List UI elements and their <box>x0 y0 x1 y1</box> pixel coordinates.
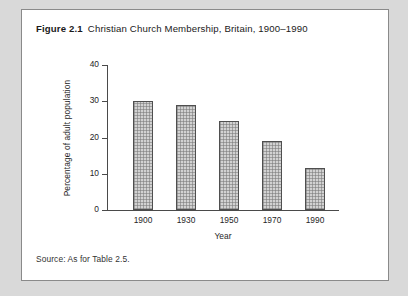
bar <box>305 168 325 210</box>
y-axis-tick-label: 10 <box>90 168 99 178</box>
x-axis-title: Year <box>107 231 339 241</box>
figure-number: Figure 2.1 <box>36 23 83 34</box>
figure-title: Figure 2.1Christian Church Membership, B… <box>36 23 308 34</box>
x-axis-tick-label: 1950 <box>209 215 249 225</box>
y-axis-line <box>107 65 108 211</box>
y-axis-tick: 10 <box>102 174 107 175</box>
figure-frame: Figure 2.1Christian Church Membership, B… <box>21 9 389 281</box>
y-axis-tick: 20 <box>102 138 107 139</box>
chart-plot-area: Percentage of adult population 0 10 20 3… <box>107 65 339 211</box>
source-note: Source: As for Table 2.5. <box>36 254 130 264</box>
x-axis-line <box>107 210 339 211</box>
bar <box>176 105 196 210</box>
y-axis-tick-label: 20 <box>90 132 99 142</box>
y-axis-tick-label: 30 <box>90 95 99 105</box>
y-axis-tick: 0 <box>102 210 107 211</box>
bar <box>133 101 153 211</box>
x-axis-tick-label: 1990 <box>295 215 335 225</box>
y-axis-tick-label: 0 <box>94 204 99 214</box>
x-axis-tick-label: 1930 <box>166 215 206 225</box>
x-axis-tick-label: 1970 <box>252 215 292 225</box>
x-axis-tick-label: 1900 <box>123 215 163 225</box>
bar <box>219 121 239 210</box>
y-axis-tick: 40 <box>102 65 107 66</box>
y-axis-tick: 30 <box>102 101 107 102</box>
bar <box>262 141 282 210</box>
y-axis-tick-label: 40 <box>90 59 99 69</box>
y-axis-title-label: Percentage of adult population <box>62 80 72 197</box>
figure-caption: Christian Church Membership, Britain, 19… <box>88 23 308 34</box>
y-axis-title: Percentage of adult population <box>61 65 73 211</box>
